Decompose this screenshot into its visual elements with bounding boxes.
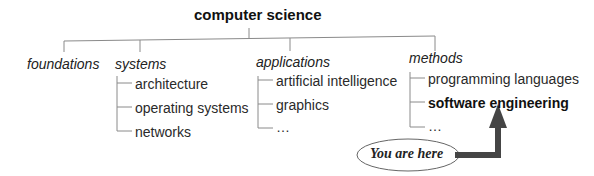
category-systems: systems — [115, 56, 166, 72]
root-node: computer science — [194, 6, 322, 23]
leaf-artificial-intelligence: artificial intelligence — [276, 73, 397, 89]
leaf-programming-languages: programming languages — [428, 71, 579, 87]
leaf-architecture: architecture — [135, 76, 208, 92]
leaf-ellipsis-methods: … — [428, 118, 442, 134]
leaf-ellipsis-applications: … — [276, 119, 290, 135]
arrow-icon — [455, 104, 507, 158]
leaf-software-engineering: software engineering — [428, 95, 569, 111]
you-are-here-label: You are here — [370, 146, 443, 162]
leaf-graphics: graphics — [276, 97, 329, 113]
category-foundations: foundations — [27, 56, 99, 72]
category-methods: methods — [409, 50, 463, 66]
category-applications: applications — [256, 54, 330, 70]
leaf-operating-systems: operating systems — [135, 100, 249, 116]
leaf-networks: networks — [135, 124, 191, 140]
